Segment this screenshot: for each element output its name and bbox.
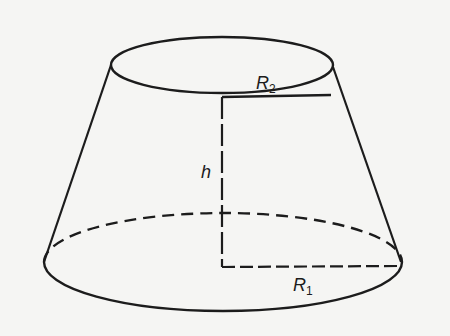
frustum-figure: R2 h R1 — [0, 0, 450, 336]
top-radius-line — [222, 95, 331, 97]
bottom-base-front-arc — [44, 262, 402, 311]
frustum-diagram: R2 h R1 — [0, 0, 450, 336]
bottom-radius-line — [222, 266, 400, 267]
bottom-radius-label: R1 — [293, 275, 313, 298]
top-base-ellipse — [111, 37, 333, 93]
height-label: h — [201, 162, 211, 182]
top-radius-label: R2 — [256, 73, 276, 96]
right-slant-edge — [333, 67, 401, 262]
